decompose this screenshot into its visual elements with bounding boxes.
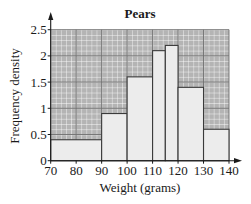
histogram-bar — [204, 129, 229, 160]
x-tick-label: 130 — [194, 163, 214, 178]
histogram-bar — [51, 140, 102, 161]
x-tick-label: 90 — [95, 163, 108, 178]
x-tick-label: 70 — [44, 163, 57, 178]
x-tick-label: 110 — [143, 163, 162, 178]
histogram-bar — [165, 45, 178, 160]
x-tick-label: 100 — [117, 163, 137, 178]
histogram-bar — [153, 51, 166, 161]
x-axis-label: Weight (grams) — [100, 180, 181, 195]
histogram-chart: 00.511.522.5 708090100110120130140 Pears… — [0, 0, 251, 204]
histogram-bar — [178, 87, 203, 160]
y-tick-label: 1.5 — [30, 75, 46, 90]
y-axis-arrow-icon — [48, 12, 53, 20]
histogram-bar — [127, 77, 152, 161]
x-tick-label: 80 — [70, 163, 83, 178]
y-axis-label: Frequency density — [7, 48, 22, 144]
y-tick-label: 1 — [40, 101, 47, 116]
y-tick-label: 2.5 — [30, 22, 46, 37]
x-tick-labels: 708090100110120130140 — [44, 161, 239, 178]
chart-title: Pears — [124, 6, 155, 21]
x-tick-label: 120 — [168, 163, 188, 178]
histogram-bar — [102, 114, 127, 161]
x-tick-label: 140 — [219, 163, 239, 178]
y-tick-labels: 00.511.522.5 — [30, 22, 50, 168]
y-tick-label: 0.5 — [30, 127, 46, 142]
y-tick-label: 2 — [40, 48, 47, 63]
